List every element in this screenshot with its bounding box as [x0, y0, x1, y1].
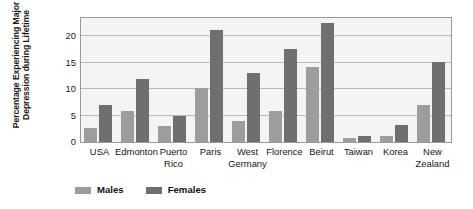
x-tick-label-line-2: Germany [213, 158, 281, 170]
y-axis-title: Percentage Experiencing Major Depression… [11, 0, 41, 135]
bar-females-florence [284, 49, 297, 142]
bar-males-korea [380, 136, 393, 142]
bar-group [266, 18, 303, 142]
legend-swatch-icon [75, 187, 91, 194]
y-axis-title-line-1: Percentage Experiencing Major [11, 0, 21, 135]
bar-females-taiwan [358, 136, 371, 142]
bar-group [303, 18, 340, 142]
bar-females-new-zealand [432, 62, 445, 142]
chart-legend: MalesFemales [75, 185, 206, 195]
y-axis-tick-label: 10 [52, 84, 76, 94]
bar-group [377, 18, 414, 142]
y-axis-tick-labels: 05101520 [52, 17, 76, 143]
bar-females-beirut [321, 23, 334, 142]
y-axis-tick-label: 20 [52, 31, 76, 41]
bar-males-new-zealand [417, 105, 430, 142]
legend-label: Males [97, 185, 124, 195]
bar-males-west-germany [232, 121, 245, 142]
bar-females-korea [395, 125, 408, 142]
x-axis-tick-labels: USAEdmontonPuertoRicoParisWestGermanyFlo… [81, 146, 451, 176]
bar-group [155, 18, 192, 142]
bar-males-puerto-rico [158, 126, 171, 142]
bar-females-west-germany [247, 73, 260, 142]
bar-males-taiwan [343, 138, 356, 142]
bar-females-puerto-rico [173, 116, 186, 142]
bar-males-edmonton [121, 111, 134, 142]
bar-group [118, 18, 155, 142]
y-axis-title-line-2: Depression during Lifetime [21, 0, 31, 135]
bar-chart-figure: Percentage Experiencing Major Depression… [0, 0, 473, 209]
bar-males-florence [269, 111, 282, 142]
x-tick-label-line-2: Zealand [398, 158, 466, 170]
bar-females-edmonton [136, 79, 149, 142]
bar-group [229, 18, 266, 142]
bar-females-paris [210, 30, 223, 142]
y-axis-tick-label: 15 [52, 58, 76, 68]
legend-item-females: Females [146, 185, 206, 195]
bar-females-usa [99, 105, 112, 142]
legend-item-males: Males [75, 185, 124, 195]
bar-males-usa [84, 128, 97, 142]
bar-group [340, 18, 377, 142]
bar-group [192, 18, 229, 142]
x-tick-label-line-2: Rico [139, 158, 207, 170]
bar-males-beirut [306, 67, 319, 142]
bars-layer [81, 18, 451, 142]
x-tick-label-line-1: New [423, 146, 442, 157]
bar-males-paris [195, 88, 208, 142]
y-axis-tick-label: 5 [52, 111, 76, 121]
x-axis-tick-label: NewZealand [398, 146, 466, 169]
bar-group [81, 18, 118, 142]
legend-label: Females [168, 185, 206, 195]
legend-swatch-icon [146, 187, 162, 194]
bar-group [414, 18, 451, 142]
